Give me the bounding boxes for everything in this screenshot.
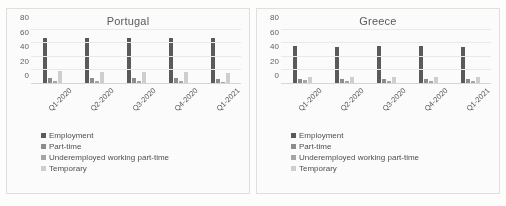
bar bbox=[345, 81, 349, 83]
x-tick-cell: Q4-2020 bbox=[162, 84, 194, 95]
bar bbox=[226, 73, 230, 83]
legend-label: Underemployed working part-time bbox=[299, 152, 419, 163]
bar-group bbox=[36, 30, 68, 83]
x-tick-cell: Q3-2020 bbox=[370, 84, 402, 95]
y-tick-label-greece: 80 bbox=[270, 14, 279, 22]
bar bbox=[377, 46, 381, 83]
legend-swatch-icon bbox=[41, 133, 46, 138]
legend-label: Employment bbox=[299, 130, 343, 141]
bar bbox=[387, 81, 391, 83]
x-tick-label: Q1-2021 bbox=[465, 86, 492, 113]
gridline-portugal bbox=[31, 29, 241, 30]
bar bbox=[174, 78, 178, 83]
legend-swatch-icon bbox=[41, 166, 46, 171]
chart-panel-portugal: Portugal 020406080 Q1-2020Q2-2020Q3-2020… bbox=[6, 8, 250, 194]
bar-group bbox=[454, 30, 486, 83]
x-tick-cell: Q2-2020 bbox=[328, 84, 360, 95]
bar-group bbox=[286, 30, 318, 83]
bar bbox=[58, 71, 62, 83]
legend-swatch-icon bbox=[291, 166, 296, 171]
legend-label: Part-time bbox=[299, 141, 331, 152]
y-axis-portugal: 020406080 bbox=[11, 26, 29, 84]
bar-group bbox=[412, 30, 444, 83]
legend-label: Part-time bbox=[49, 141, 81, 152]
charts-container: Portugal 020406080 Q1-2020Q2-2020Q3-2020… bbox=[0, 0, 506, 206]
x-tick-cell: Q2-2020 bbox=[78, 84, 110, 95]
bar bbox=[142, 72, 146, 83]
legend-item[interactable]: Underemployed working part-time bbox=[291, 152, 499, 163]
x-tick-label: Q3-2020 bbox=[131, 86, 158, 113]
y-tick-label-greece: 60 bbox=[270, 29, 279, 37]
legend-swatch-icon bbox=[41, 155, 46, 160]
bar-group bbox=[204, 30, 236, 83]
x-tick-label: Q1-2020 bbox=[297, 86, 324, 113]
bar bbox=[211, 38, 215, 83]
legend-item[interactable]: Temporary bbox=[41, 163, 249, 174]
plot-canvas-greece bbox=[281, 30, 491, 84]
chart-title-portugal: Portugal bbox=[7, 9, 249, 28]
x-axis-portugal: Q1-2020Q2-2020Q3-2020Q4-2020Q1-2021 bbox=[31, 84, 241, 114]
y-axis-greece: 020406080 bbox=[261, 26, 279, 84]
y-tick-label-portugal: 0 bbox=[25, 72, 29, 80]
legend-item[interactable]: Employment bbox=[291, 130, 499, 141]
x-tick-cell: Q1-2020 bbox=[286, 84, 318, 95]
x-tick-label: Q4-2020 bbox=[173, 86, 200, 113]
legend-swatch-icon bbox=[41, 144, 46, 149]
plot-area-greece: 020406080 bbox=[261, 30, 491, 84]
gridline-greece bbox=[281, 29, 491, 30]
x-tick-cell: Q1-2021 bbox=[454, 84, 486, 95]
x-tick-label: Q1-2021 bbox=[215, 86, 242, 113]
x-tick-label: Q1-2020 bbox=[47, 86, 74, 113]
bar-group bbox=[120, 30, 152, 83]
gridline-greece bbox=[281, 56, 491, 57]
x-axis-greece: Q1-2020Q2-2020Q3-2020Q4-2020Q1-2021 bbox=[281, 84, 491, 114]
legend-swatch-icon bbox=[291, 133, 296, 138]
legend-item[interactable]: Part-time bbox=[291, 141, 499, 152]
bar bbox=[293, 46, 297, 83]
bar bbox=[392, 77, 396, 83]
bar-group bbox=[162, 30, 194, 83]
gridline-greece bbox=[281, 69, 491, 70]
legend-item[interactable]: Employment bbox=[41, 130, 249, 141]
bar bbox=[424, 79, 428, 83]
x-tick-label: Q3-2020 bbox=[381, 86, 408, 113]
bar-groups-greece bbox=[281, 30, 491, 83]
bar bbox=[382, 79, 386, 83]
legend-swatch-icon bbox=[291, 144, 296, 149]
x-tick-cell: Q1-2020 bbox=[36, 84, 68, 95]
bar bbox=[308, 77, 312, 83]
legend-item[interactable]: Part-time bbox=[41, 141, 249, 152]
bar bbox=[53, 81, 57, 83]
chart-title-greece: Greece bbox=[257, 9, 499, 28]
legend-item[interactable]: Underemployed working part-time bbox=[41, 152, 249, 163]
x-tick-labels-greece: Q1-2020Q2-2020Q3-2020Q4-2020Q1-2021 bbox=[281, 84, 491, 95]
y-tick-label-portugal: 60 bbox=[20, 29, 29, 37]
x-tick-labels-portugal: Q1-2020Q2-2020Q3-2020Q4-2020Q1-2021 bbox=[31, 84, 241, 95]
x-tick-cell: Q3-2020 bbox=[120, 84, 152, 95]
legend-item[interactable]: Temporary bbox=[291, 163, 499, 174]
bar bbox=[335, 47, 339, 83]
bar bbox=[350, 77, 354, 83]
bar bbox=[85, 38, 89, 83]
gridline-portugal bbox=[31, 42, 241, 43]
y-tick-label-greece: 40 bbox=[270, 43, 279, 51]
y-tick-label-greece: 0 bbox=[275, 72, 279, 80]
chart-panel-greece: Greece 020406080 Q1-2020Q2-2020Q3-2020Q4… bbox=[256, 8, 500, 194]
legend-label: Temporary bbox=[49, 163, 87, 174]
legend-label: Employment bbox=[49, 130, 93, 141]
bar-group bbox=[370, 30, 402, 83]
x-tick-label: Q4-2020 bbox=[423, 86, 450, 113]
bar bbox=[434, 77, 438, 83]
bar-groups-portugal bbox=[31, 30, 241, 83]
bar bbox=[461, 47, 465, 83]
bar bbox=[90, 78, 94, 83]
gridline-portugal bbox=[31, 56, 241, 57]
bar bbox=[127, 38, 131, 83]
bar bbox=[179, 81, 183, 83]
legend-greece: EmploymentPart-timeUnderemployed working… bbox=[257, 130, 499, 174]
bar bbox=[48, 78, 52, 83]
y-tick-label-greece: 20 bbox=[270, 58, 279, 66]
bar bbox=[221, 82, 225, 83]
y-tick-label-portugal: 20 bbox=[20, 58, 29, 66]
bar-group bbox=[328, 30, 360, 83]
